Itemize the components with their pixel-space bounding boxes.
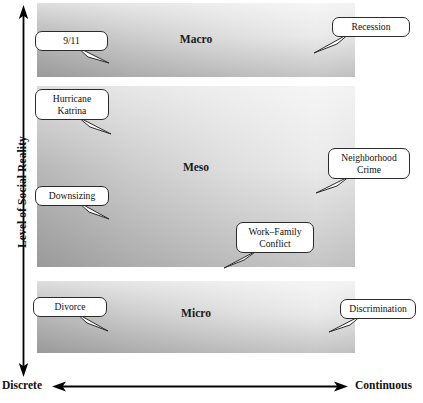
callout-katrina-line2: Katrina [40, 105, 104, 117]
callout-divorce[interactable]: Divorce [33, 297, 107, 315]
y-axis-label: Level of Social Reality [16, 112, 28, 272]
x-axis-label-left: Discrete [2, 379, 42, 391]
callout-neighborhood-crime-line1: Neighborhood [333, 152, 405, 164]
callout-katrina-bubble: Hurricane Katrina [35, 89, 109, 120]
band-meso-label: Meso [37, 161, 355, 173]
band-micro: Micro [37, 281, 355, 353]
callout-work-family-conflict-line1: Work–Family [241, 226, 309, 238]
callout-work-family-conflict-line2: Conflict [241, 238, 309, 250]
callout-work-family-conflict[interactable]: Work–Family Conflict [236, 222, 314, 252]
callout-nine-eleven-bubble: 9/11 [35, 31, 108, 51]
callout-nine-eleven[interactable]: 9/11 [35, 31, 108, 49]
callout-downsizing-line1: Downsizing [49, 190, 95, 201]
callout-neighborhood-crime-line2: Crime [333, 164, 405, 176]
x-axis-label-right: Continuous [355, 379, 412, 391]
social-reality-diagram: Level of Social Reality Discrete Continu… [0, 0, 423, 403]
callout-katrina[interactable]: Hurricane Katrina [35, 89, 109, 119]
callout-divorce-bubble: Divorce [33, 297, 107, 317]
callout-downsizing[interactable]: Downsizing [35, 186, 109, 204]
x-axis-arrow [52, 382, 348, 392]
callout-neighborhood-crime[interactable]: Neighborhood Crime [328, 148, 410, 178]
callout-downsizing-bubble: Downsizing [35, 186, 109, 206]
callout-discrimination[interactable]: Discrimination [340, 299, 416, 317]
callout-recession-line1: Recession [352, 21, 391, 32]
callout-discrimination-bubble: Discrimination [340, 299, 416, 319]
callout-divorce-line1: Divorce [55, 301, 86, 312]
callout-nine-eleven-line1: 9/11 [63, 35, 80, 46]
callout-recession-bubble: Recession [332, 17, 410, 37]
callout-katrina-line1: Hurricane [40, 93, 104, 105]
callout-discrimination-line1: Discrimination [349, 303, 407, 314]
callout-work-family-conflict-bubble: Work–Family Conflict [236, 222, 314, 253]
callout-neighborhood-crime-bubble: Neighborhood Crime [328, 148, 410, 179]
callout-recession[interactable]: Recession [332, 17, 410, 35]
